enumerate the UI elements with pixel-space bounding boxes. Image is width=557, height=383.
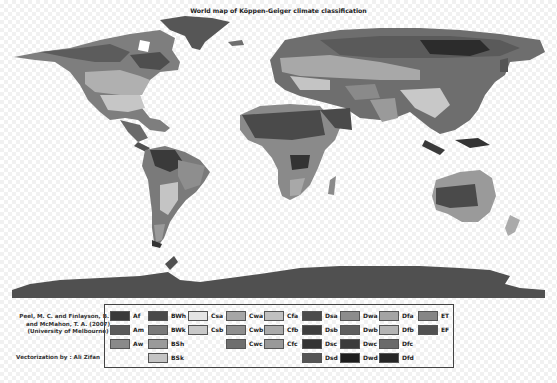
legend-item-cfa: Cfa (264, 310, 298, 321)
legend-swatch (110, 339, 130, 349)
legend-label: Dwc (363, 340, 377, 347)
legend-label: BWh (171, 312, 186, 319)
legend-label: Cfa (287, 312, 298, 319)
south-america-region (142, 146, 210, 248)
legend-swatch (188, 325, 208, 335)
legend-label: Dwa (363, 312, 378, 319)
legend-swatch (226, 339, 246, 349)
legend-item-dsa: Dsa (302, 310, 338, 321)
legend-swatch (340, 339, 360, 349)
legend-label: BSh (171, 340, 184, 347)
legend-label: Cwc (249, 340, 263, 347)
legend-label: Dfb (402, 326, 414, 333)
legend-swatch (340, 311, 360, 321)
australia-region (432, 170, 520, 236)
legend-label: Aw (133, 340, 143, 347)
legend-item-dwd: Dwd (340, 352, 378, 363)
legend-item-dfd: Dfd (379, 352, 414, 363)
legend-swatch (148, 353, 168, 363)
legend-label: Dfc (402, 340, 413, 347)
legend-swatch (302, 325, 322, 335)
legend-item-cfb: Cfb (264, 324, 298, 335)
legend-swatch (379, 339, 399, 349)
legend-label: Dsc (325, 340, 337, 347)
legend-item-cfc: Cfc (264, 338, 298, 349)
legend-swatch (188, 311, 208, 321)
legend-item-am: Am (110, 324, 144, 335)
legend-item-dsc: Dsc (302, 338, 337, 349)
legend-swatch (379, 311, 399, 321)
legend-swatch (418, 311, 438, 321)
legend-label: ET (441, 312, 449, 319)
legend-swatch (302, 353, 322, 363)
legend-item-csb: Csb (188, 324, 223, 335)
legend-swatch (226, 311, 246, 321)
legend-label: Dwb (363, 326, 378, 333)
legend-item-dwb: Dwb (340, 324, 378, 335)
legend-item-dfc: Dfc (379, 338, 413, 349)
legend-swatch (264, 339, 284, 349)
legend-item-dsd: Dsd (302, 352, 338, 363)
legend-item-dwc: Dwc (340, 338, 377, 349)
legend-label: BWk (171, 326, 186, 333)
legend-label: Dfd (402, 354, 414, 361)
legend-swatch (302, 339, 322, 349)
legend-item-csa: Csa (188, 310, 223, 321)
legend-label: Csb (211, 326, 223, 333)
legend-label: BSk (171, 354, 184, 361)
legend-label: Am (133, 326, 144, 333)
legend-label: Dsb (325, 326, 338, 333)
legend-item-dwa: Dwa (340, 310, 378, 321)
legend-label: Csa (211, 312, 223, 319)
legend-swatch (148, 339, 168, 349)
legend-swatch (340, 325, 360, 335)
legend-label: Af (133, 312, 140, 319)
legend-swatch (340, 353, 360, 363)
africa-region (240, 104, 352, 200)
legend-item-af: Af (110, 310, 140, 321)
legend-item-bsh: BSh (148, 338, 184, 349)
antarctica-region (12, 256, 545, 298)
legend-swatch (110, 325, 130, 335)
legend-label: Cfc (287, 340, 298, 347)
world-map (0, 0, 557, 300)
legend-label: Dfa (402, 312, 414, 319)
legend-swatch (379, 353, 399, 363)
legend-swatch (148, 311, 168, 321)
legend-item-bsk: BSk (148, 352, 184, 363)
legend-swatch (418, 325, 438, 335)
legend-swatch (264, 311, 284, 321)
legend-label: Dsa (325, 312, 338, 319)
legend-item-bwh: BWh (148, 310, 186, 321)
vectorization-credit: Vectorization by : Ali Zifan (8, 354, 108, 360)
north-america-region (14, 30, 180, 152)
legend-item-aw: Aw (110, 338, 143, 349)
legend-item-cwc: Cwc (226, 338, 263, 349)
legend-swatch (264, 325, 284, 335)
legend-label: Cwb (249, 326, 263, 333)
legend-swatch (110, 311, 130, 321)
legend-item-dfb: Dfb (379, 324, 414, 335)
legend-item-cwb: Cwb (226, 324, 263, 335)
legend-label: Dwd (363, 354, 378, 361)
legend-label: EF (441, 326, 449, 333)
legend-swatch (302, 311, 322, 321)
legend-item-dsb: Dsb (302, 324, 338, 335)
legend-swatch (148, 325, 168, 335)
legend-label: Cfb (287, 326, 298, 333)
legend-label: Cwa (249, 312, 263, 319)
climate-legend: AfAmAwBWhBWkBShBSkCsaCsbCwaCwbCwcCfaCfbC… (104, 304, 454, 368)
legend-item-ef: EF (418, 324, 449, 335)
legend-swatch (379, 325, 399, 335)
legend-item-et: ET (418, 310, 449, 321)
legend-swatch (226, 325, 246, 335)
legend-item-dfa: Dfa (379, 310, 414, 321)
legend-item-bwk: BWk (148, 324, 186, 335)
legend-label: Dsd (325, 354, 338, 361)
legend-item-cwa: Cwa (226, 310, 263, 321)
